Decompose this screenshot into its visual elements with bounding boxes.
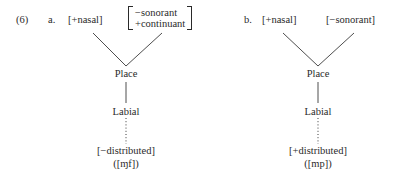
panel-label-a: a. (48, 15, 55, 26)
matrix-right-bracket (187, 6, 192, 30)
feature-sonorant-a: −sonorant (135, 7, 185, 18)
feature-continuant-a: +continuant (135, 18, 185, 29)
example-segments-b: ([mp]) (304, 159, 331, 170)
feature-nasal-b: [+nasal] (262, 15, 297, 26)
branch-line-a-left (93, 33, 126, 66)
place-node-b: Place (307, 69, 330, 80)
branch-line-b-left (283, 33, 318, 66)
labial-node-a: Labial (113, 107, 140, 118)
feature-sonorant-b: [−sonorant] (326, 15, 375, 26)
feature-matrix-a: −sonorant +continuant (128, 6, 192, 30)
branch-line-b-right (318, 33, 354, 66)
labial-node-b: Labial (305, 107, 332, 118)
feature-nasal-a: [+nasal] (68, 15, 103, 26)
distributed-feature-b: [+distributed] (289, 146, 347, 157)
panel-label-b: b. (244, 15, 252, 26)
example-number: (6) (16, 15, 28, 26)
branch-line-a-right (126, 33, 162, 66)
example-segments-a: ([ɱf]) (113, 159, 139, 170)
place-node-a: Place (115, 69, 138, 80)
distributed-feature-a: [−distributed] (97, 146, 155, 157)
